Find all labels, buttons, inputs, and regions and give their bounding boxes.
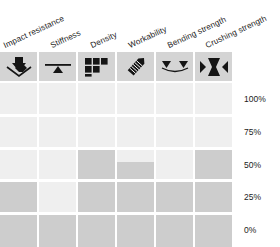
bar-fill-crushing-strength bbox=[195, 149, 232, 247]
crushing-hourglass-icon bbox=[199, 57, 229, 77]
bar-fill-workability bbox=[117, 162, 154, 247]
bar-track-impact-resistance bbox=[0, 83, 37, 247]
stiffness-beam-fulcrum-icon bbox=[44, 58, 72, 76]
impact-arrow-down-icon bbox=[6, 57, 32, 77]
workability-chisel-icon bbox=[123, 55, 149, 79]
y-axis-tick-50: 50% bbox=[244, 160, 261, 170]
gridline-25 bbox=[0, 212, 233, 215]
gridline-50 bbox=[0, 179, 233, 182]
y-axis-tick-100: 100% bbox=[244, 94, 266, 104]
bar-fill-density bbox=[78, 149, 115, 247]
bar-track-workability bbox=[117, 83, 154, 247]
icon-box-workability bbox=[117, 52, 154, 81]
material-properties-chart: Impact resistance Stiffness Density Work… bbox=[0, 0, 280, 247]
y-axis-tick-75: 75% bbox=[244, 127, 261, 137]
bar-track-bending-strength bbox=[156, 83, 193, 247]
icon-box-density bbox=[78, 52, 115, 81]
bar-track-density bbox=[78, 83, 115, 247]
gridline-100 bbox=[0, 114, 233, 117]
icon-row bbox=[0, 52, 280, 81]
icon-box-stiffness bbox=[39, 52, 76, 81]
bar-fill-stiffness bbox=[39, 214, 76, 247]
category-labels: Impact resistance Stiffness Density Work… bbox=[0, 0, 280, 50]
icon-box-impact-resistance bbox=[0, 52, 37, 81]
density-blocks-icon bbox=[84, 57, 110, 77]
bar-track-stiffness bbox=[39, 83, 76, 247]
bending-two-arrows-icon bbox=[160, 58, 190, 76]
y-axis-tick-25: 25% bbox=[244, 192, 261, 202]
gridline-75 bbox=[0, 147, 233, 150]
category-label-density: Density bbox=[90, 31, 119, 50]
y-axis-tick-0: 0% bbox=[244, 225, 256, 235]
bar-track-crushing-strength bbox=[195, 83, 232, 247]
icon-box-bending-strength bbox=[156, 52, 193, 81]
category-label-stiffness: Stiffness bbox=[50, 29, 83, 50]
y-axis-labels: 100% 75% 50% 25% 0% bbox=[236, 83, 280, 247]
icon-box-crushing-strength bbox=[195, 52, 232, 81]
category-label-workability: Workability bbox=[128, 25, 169, 50]
